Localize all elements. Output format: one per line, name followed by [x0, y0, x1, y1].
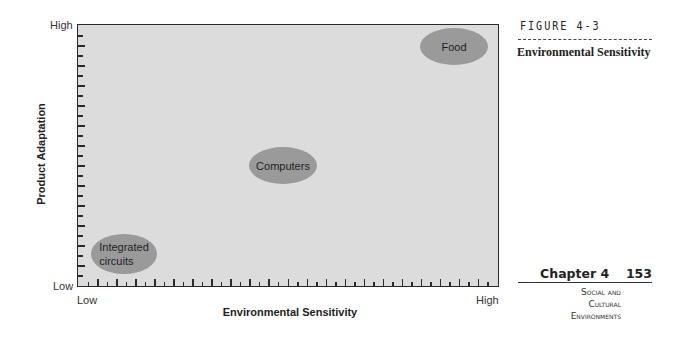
plot-area: Integrated circuits Computers Food	[77, 24, 499, 287]
x-tick	[154, 279, 156, 286]
section-line-1: Social and	[520, 286, 621, 298]
blob-label: Food	[441, 40, 466, 54]
y-tick	[78, 135, 83, 137]
y-tick	[78, 205, 85, 207]
x-tick	[135, 279, 137, 286]
x-tick	[240, 282, 242, 286]
y-tick	[78, 95, 83, 97]
x-tick	[116, 279, 118, 286]
x-tick	[221, 282, 223, 286]
y-tick	[78, 45, 85, 47]
y-tick	[78, 115, 83, 117]
x-tick	[335, 282, 337, 286]
x-axis-low-label: Low	[77, 294, 97, 306]
x-tick	[230, 279, 232, 286]
x-tick	[288, 279, 290, 286]
y-axis-high-label: High	[50, 19, 73, 31]
y-tick	[78, 35, 83, 37]
chapter-header: Chapter 4 153	[520, 266, 652, 281]
y-tick	[78, 275, 83, 277]
x-tick	[249, 279, 251, 286]
x-tick	[364, 279, 366, 286]
x-tick	[164, 282, 166, 286]
figure-label: FIGURE 4-3	[520, 18, 601, 33]
x-tick	[487, 282, 489, 286]
x-tick	[440, 279, 442, 286]
x-tick	[373, 282, 375, 286]
y-tick	[78, 55, 83, 57]
x-tick	[183, 282, 185, 286]
chapter-label: Chapter 4	[540, 266, 609, 281]
x-tick	[107, 282, 109, 286]
page-number: 153	[626, 266, 652, 281]
y-tick	[78, 235, 83, 237]
y-tick	[78, 145, 85, 147]
figure-divider	[518, 39, 652, 40]
y-tick	[78, 175, 83, 177]
y-tick	[78, 185, 85, 187]
x-tick	[430, 282, 432, 286]
y-tick	[78, 155, 83, 157]
x-tick	[126, 282, 128, 286]
x-tick	[88, 282, 90, 286]
x-tick	[145, 282, 147, 286]
x-tick	[468, 282, 470, 286]
figure-title: Environmental Sensitivity	[517, 45, 650, 60]
x-tick	[268, 279, 270, 286]
x-tick	[259, 282, 261, 286]
blob-label-line2: circuits	[99, 254, 149, 268]
x-tick	[202, 282, 204, 286]
blob-label: Computers	[256, 159, 310, 173]
y-tick	[78, 105, 85, 107]
x-tick	[297, 282, 299, 286]
x-tick	[192, 279, 194, 286]
y-tick	[78, 255, 83, 257]
section-line-3: Environments	[520, 310, 621, 322]
y-tick	[78, 125, 85, 127]
y-axis-title: Product Adaptation	[35, 99, 47, 209]
y-tick	[78, 165, 85, 167]
section-line-2: Cultural	[520, 298, 621, 310]
y-tick	[78, 225, 85, 227]
x-tick	[345, 279, 347, 286]
y-tick	[78, 265, 85, 267]
chapter-divider	[518, 282, 652, 283]
x-tick	[354, 282, 356, 286]
x-tick	[421, 279, 423, 286]
x-tick	[478, 279, 480, 286]
y-tick	[78, 215, 83, 217]
y-tick	[78, 195, 83, 197]
x-tick	[411, 282, 413, 286]
blob-integrated-circuits: Integrated circuits	[91, 234, 157, 274]
x-tick	[459, 279, 461, 286]
blob-label-line1: Integrated	[99, 240, 149, 254]
x-tick	[449, 282, 451, 286]
y-tick	[78, 85, 85, 87]
x-tick	[278, 282, 280, 286]
blob-food: Food	[420, 28, 488, 65]
x-axis-high-label: High	[476, 294, 499, 306]
x-tick	[316, 282, 318, 286]
y-tick	[78, 65, 85, 67]
x-tick	[97, 279, 99, 286]
section-title: Social and Cultural Environments	[520, 286, 621, 322]
x-tick	[307, 279, 309, 286]
x-tick	[326, 279, 328, 286]
blob-computers: Computers	[249, 147, 317, 184]
x-tick	[383, 279, 385, 286]
y-tick	[78, 245, 85, 247]
x-tick	[392, 282, 394, 286]
x-tick	[402, 279, 404, 286]
x-axis-title: Environmental Sensitivity	[200, 306, 380, 318]
x-tick	[211, 279, 213, 286]
y-axis-low-label: Low	[53, 280, 73, 292]
y-tick	[78, 75, 83, 77]
x-tick	[173, 279, 175, 286]
